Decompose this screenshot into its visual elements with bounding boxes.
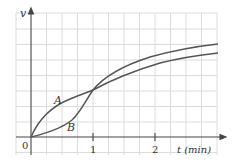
x-axis-label: t (min) — [177, 145, 211, 155]
origin-label: 0 — [22, 141, 28, 151]
chart-canvas — [0, 0, 232, 165]
x-tick-2: 2 — [152, 145, 158, 155]
curve-a-label: A — [54, 95, 62, 106]
y-axis-label: v — [20, 8, 26, 19]
curve-b-label: B — [67, 122, 75, 133]
grid — [16, 13, 217, 155]
x-tick-1: 1 — [90, 145, 96, 155]
